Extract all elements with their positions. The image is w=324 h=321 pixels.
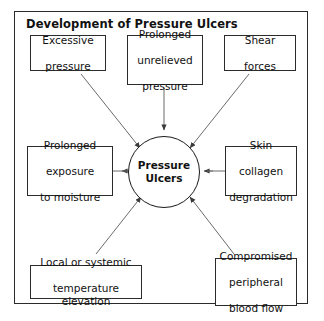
factor-line-2: temperature elevation bbox=[34, 282, 138, 308]
factor-box-prolonged-unrelieved-pressure[interactable]: Prolongedunrelievedpressure bbox=[127, 35, 203, 85]
factor-label-shear-forces: Shearforces bbox=[238, 34, 282, 73]
center-node-pressure-ulcers[interactable]: PressureUlcers bbox=[128, 136, 200, 208]
factor-line-3: blood flow bbox=[217, 302, 296, 315]
factor-label-excessive-pressure: Excessivepressure bbox=[36, 34, 99, 73]
factor-label-prolonged-exposure-to-moisture: Prolongedexposureto moisture bbox=[34, 139, 106, 204]
factor-line-2: forces bbox=[241, 60, 279, 73]
factor-box-skin-collagen-degradation[interactable]: Skincollagendegradation bbox=[225, 146, 297, 196]
factor-box-shear-forces[interactable]: Shearforces bbox=[224, 35, 296, 71]
factor-line-1: Shear bbox=[241, 34, 279, 47]
factor-box-local-or-systemic-temperature-elevation[interactable]: Local or systemictemperature elevation bbox=[30, 265, 142, 299]
factor-line-1: Excessive bbox=[39, 34, 96, 47]
factor-line-1: Local or systemic bbox=[34, 256, 138, 269]
factor-label-skin-collagen-degradation: Skincollagendegradation bbox=[223, 139, 299, 204]
center-node-label: PressureUlcers bbox=[138, 159, 190, 186]
factor-line-1: Prolonged bbox=[37, 139, 103, 152]
factor-line-3: to moisture bbox=[37, 191, 103, 204]
factor-line-1: Compromised bbox=[217, 250, 296, 263]
factor-label-local-or-systemic-temperature-elevation: Local or systemictemperature elevation bbox=[31, 256, 141, 308]
center-line-1: Pressure bbox=[138, 159, 190, 171]
factor-line-1: Prolonged bbox=[134, 28, 196, 41]
factor-label-prolonged-unrelieved-pressure: Prolongedunrelievedpressure bbox=[131, 28, 199, 93]
factor-line-3: pressure bbox=[134, 80, 196, 93]
factor-box-excessive-pressure[interactable]: Excessivepressure bbox=[30, 35, 106, 71]
factor-line-3: degradation bbox=[226, 191, 296, 204]
factor-label-compromised-peripheral-blood-flow: Compromisedperipheralblood flow bbox=[214, 250, 299, 315]
factor-line-2: peripheral bbox=[217, 276, 296, 289]
factor-line-2: collagen bbox=[226, 165, 296, 178]
diagram-canvas: Development of Pressure Ulcers Excessive… bbox=[0, 0, 324, 321]
factor-line-2: exposure bbox=[37, 165, 103, 178]
factor-box-compromised-peripheral-blood-flow[interactable]: Compromisedperipheralblood flow bbox=[215, 258, 297, 306]
factor-box-prolonged-exposure-to-moisture[interactable]: Prolongedexposureto moisture bbox=[27, 146, 113, 196]
factor-line-1: Skin bbox=[226, 139, 296, 152]
factor-line-2: unrelieved bbox=[134, 54, 196, 67]
center-line-2: Ulcers bbox=[146, 172, 183, 184]
factor-line-2: pressure bbox=[39, 60, 96, 73]
